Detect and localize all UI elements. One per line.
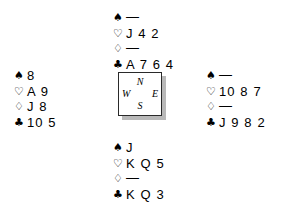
suit-row-diamonds: ♢ — [113, 171, 165, 187]
hand-west-diamonds-cards: J 8 [27, 100, 48, 113]
compass-box-face: N W E S [118, 72, 162, 116]
heart-icon: ♡ [14, 86, 27, 97]
hand-east-hearts-cards: 10 8 7 [219, 85, 262, 98]
spade-icon: ♠ [206, 70, 219, 81]
suit-row-spades: ♠ — [113, 10, 174, 26]
suit-row-clubs: ♣ J 9 8 2 [206, 115, 266, 131]
suit-row-clubs: ♣ K Q 3 [113, 187, 165, 203]
hand-north-clubs-cards: A 7 6 4 [126, 58, 174, 71]
diamond-icon: ♢ [206, 101, 219, 112]
suit-row-diamonds: ♢ J 8 [14, 99, 57, 115]
spade-icon: ♠ [113, 142, 126, 153]
heart-icon: ♡ [113, 28, 126, 39]
suit-row-diamonds: ♢ — [113, 41, 174, 57]
suit-row-clubs: ♣ 10 5 [14, 115, 57, 131]
hand-west-clubs-cards: 10 5 [27, 116, 57, 129]
suit-row-spades: ♠ 8 [14, 68, 57, 84]
hand-south: ♠ J ♡ K Q 5 ♢ — ♣ K Q 3 [113, 140, 165, 202]
hand-west: ♠ 8 ♡ A 9 ♢ J 8 ♣ 10 5 [14, 68, 57, 130]
hand-west-hearts-cards: A 9 [27, 85, 49, 98]
club-icon: ♣ [14, 117, 27, 128]
compass-label-south: S [138, 101, 143, 111]
spade-icon: ♠ [14, 70, 27, 81]
hand-east: ♠ — ♡ 10 8 7 ♢ — ♣ J 9 8 2 [206, 68, 266, 130]
hand-north-spades-cards: — [126, 10, 139, 23]
suit-row-clubs: ♣ A 7 6 4 [113, 57, 174, 73]
spade-icon: ♠ [113, 12, 126, 23]
hand-east-clubs-cards: J 9 8 2 [219, 116, 266, 129]
suit-row-spades: ♠ — [206, 68, 266, 84]
suit-row-diamonds: ♢ — [206, 99, 266, 115]
hand-north-hearts-cards: J 4 2 [126, 27, 160, 40]
hand-south-clubs-cards: K Q 3 [126, 188, 165, 201]
suit-row-hearts: ♡ A 9 [14, 84, 57, 100]
diamond-icon: ♢ [113, 43, 126, 54]
compass-label-north: N [137, 77, 144, 87]
club-icon: ♣ [113, 59, 126, 70]
diamond-icon: ♢ [14, 101, 27, 112]
hand-south-spades-cards: J [126, 141, 134, 154]
hand-south-hearts-cards: K Q 5 [126, 157, 165, 170]
suit-row-spades: ♠ J [113, 140, 165, 156]
compass-box: N W E S [118, 72, 162, 116]
diamond-icon: ♢ [113, 173, 126, 184]
club-icon: ♣ [113, 189, 126, 200]
club-icon: ♣ [206, 117, 219, 128]
heart-icon: ♡ [113, 158, 126, 169]
hand-west-spades-cards: 8 [27, 69, 35, 82]
bridge-hand-diagram: ♠ — ♡ J 4 2 ♢ — ♣ A 7 6 4 ♠ 8 ♡ A 9 ♢ J … [0, 0, 285, 207]
suit-row-hearts: ♡ J 4 2 [113, 26, 174, 42]
hand-south-diamonds-cards: — [126, 171, 139, 184]
suit-row-hearts: ♡ 10 8 7 [206, 84, 266, 100]
hand-north-diamonds-cards: — [126, 41, 139, 54]
compass-label-west: W [122, 89, 130, 99]
heart-icon: ♡ [206, 86, 219, 97]
suit-row-hearts: ♡ K Q 5 [113, 156, 165, 172]
hand-east-diamonds-cards: — [219, 99, 232, 112]
hand-north: ♠ — ♡ J 4 2 ♢ — ♣ A 7 6 4 [113, 10, 174, 72]
compass-label-east: E [152, 89, 158, 99]
hand-east-spades-cards: — [219, 68, 232, 81]
